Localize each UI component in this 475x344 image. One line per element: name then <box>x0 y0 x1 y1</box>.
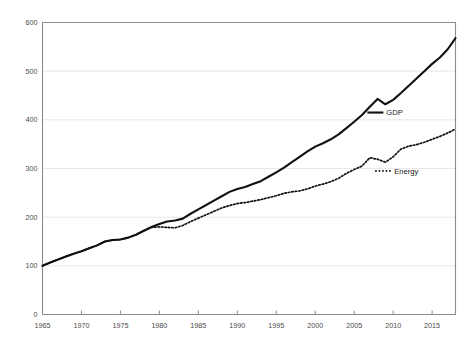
x-tick-label-2005: 2005 <box>346 321 362 330</box>
x-tick-label-1965: 1965 <box>35 321 51 330</box>
y-tick-label-200: 200 <box>26 213 38 222</box>
legend-label-energy: Energy <box>394 167 418 176</box>
x-tick-label-1980: 1980 <box>151 321 167 330</box>
legend-label-gdp: GDP <box>386 108 402 117</box>
y-tick-label-300: 300 <box>26 164 38 173</box>
x-tick-label-1990: 1990 <box>229 321 245 330</box>
x-tick-label-1985: 1985 <box>190 321 206 330</box>
series-line-gdp <box>43 38 456 266</box>
x-axis-tick-labels: 1965197019751980198519901995200020052010… <box>35 321 441 330</box>
y-tick-label-600: 600 <box>26 18 38 27</box>
y-tick-label-400: 400 <box>26 115 38 124</box>
x-tick-label-1970: 1970 <box>73 321 89 330</box>
chart-canvas: 0100200300400500600 19651970197519801985… <box>0 0 475 344</box>
line-chart: 0100200300400500600 19651970197519801985… <box>0 0 475 344</box>
y-tick-label-500: 500 <box>26 67 38 76</box>
gridlines <box>43 23 456 266</box>
x-tick-label-2010: 2010 <box>385 321 401 330</box>
x-tick-label-2015: 2015 <box>424 321 440 330</box>
inline-legend: GDPEnergy <box>367 108 418 175</box>
y-tick-label-100: 100 <box>26 261 38 270</box>
series-lines <box>43 38 456 266</box>
x-tick-label-2000: 2000 <box>307 321 323 330</box>
series-line-energy <box>43 129 456 266</box>
y-tick-label-0: 0 <box>34 310 38 319</box>
y-axis-tick-labels: 0100200300400500600 <box>26 18 38 319</box>
x-tick-label-1995: 1995 <box>268 321 284 330</box>
x-tick-label-1975: 1975 <box>112 321 128 330</box>
x-axis-ticks <box>43 311 433 315</box>
